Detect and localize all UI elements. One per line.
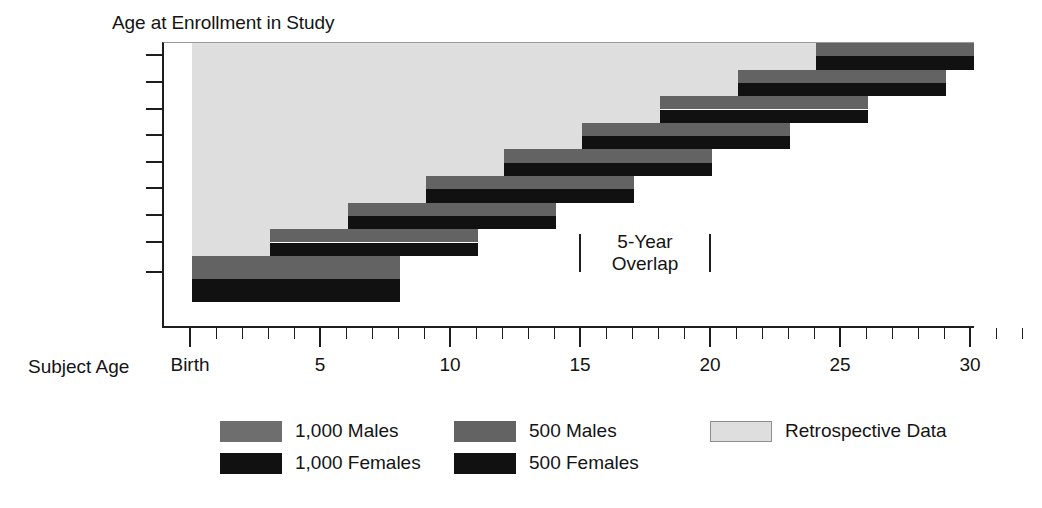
- cohort-females-bar: [426, 189, 634, 202]
- cohort-males-bar: [270, 229, 478, 242]
- legend-item-males-500[interactable]: 500 Males: [454, 420, 617, 442]
- x-tick-label: Birth: [170, 354, 209, 376]
- legend-item-retrospective[interactable]: Retrospective Data: [710, 420, 947, 442]
- x-tick-label: 20: [699, 354, 720, 376]
- cohort-females-bar: [192, 279, 400, 302]
- x-tick-minor: [372, 328, 373, 339]
- x-tick-minor: [1022, 328, 1023, 339]
- x-tick-minor: [346, 328, 347, 339]
- legend-label: 500 Females: [529, 452, 639, 474]
- cohort-males-bar: [192, 256, 400, 279]
- x-axis-title: Subject Age: [28, 356, 129, 378]
- y-axis-title: Age at Enrollment in Study: [112, 12, 334, 34]
- x-tick-major: [709, 328, 711, 347]
- overlap-rule-left: [579, 234, 581, 272]
- cohort-males-bar: [348, 203, 556, 216]
- y-tick-mark: [146, 187, 162, 189]
- legend-swatch-icon: [710, 421, 772, 442]
- x-tick-label: 10: [439, 354, 460, 376]
- x-tick-minor: [424, 328, 425, 339]
- overlap-label: 5-YearOverlap: [585, 231, 705, 275]
- legend-swatch-icon: [454, 453, 516, 474]
- cohort-females-bar: [582, 136, 790, 149]
- plot-area: [162, 42, 974, 326]
- cohort-males-bar: [816, 43, 974, 56]
- x-tick-major: [839, 328, 841, 347]
- x-tick-major: [189, 328, 191, 347]
- legend-swatch-icon: [220, 421, 282, 442]
- x-tick-minor: [892, 328, 893, 339]
- x-tick-minor: [788, 328, 789, 339]
- y-tick-mark: [146, 161, 162, 163]
- cohort-retrospective-segment: [192, 43, 270, 256]
- y-tick-mark: [146, 54, 162, 56]
- legend-item-females-500[interactable]: 500 Females: [454, 452, 639, 474]
- x-tick-major: [449, 328, 451, 347]
- chart-legend: 1,000 Males1,000 Females500 Males500 Fem…: [220, 420, 940, 490]
- y-tick-mark: [146, 241, 162, 243]
- x-tick-minor: [216, 328, 217, 339]
- cohort-females-bar: [504, 163, 712, 176]
- x-tick-minor: [554, 328, 555, 339]
- y-tick-mark: [146, 271, 162, 273]
- x-tick-minor: [268, 328, 269, 339]
- x-tick-minor: [762, 328, 763, 339]
- x-tick-label: 30: [959, 354, 980, 376]
- cohort-females-bar: [660, 110, 868, 123]
- cohort-females-bar: [348, 216, 556, 229]
- x-tick-minor: [996, 328, 997, 339]
- legend-item-females-1000[interactable]: 1,000 Females: [220, 452, 421, 474]
- x-tick-minor: [632, 328, 633, 339]
- x-tick-minor: [242, 328, 243, 339]
- x-axis-line: [162, 326, 974, 328]
- x-tick-minor: [866, 328, 867, 339]
- legend-label: Retrospective Data: [785, 420, 947, 442]
- x-tick-label: 25: [829, 354, 850, 376]
- x-tick-label: 5: [315, 354, 326, 376]
- x-tick-minor: [944, 328, 945, 339]
- cohort-males-bar: [738, 70, 946, 83]
- overlap-label-line1: 5-Year: [585, 231, 705, 253]
- cohort-females-bar: [270, 243, 478, 256]
- x-tick-minor: [684, 328, 685, 339]
- y-tick-mark: [146, 81, 162, 83]
- x-tick-minor: [294, 328, 295, 339]
- cohort-females-bar: [738, 83, 946, 96]
- chart-canvas: Age at Enrollment in Study Subject Age 2…: [0, 0, 1042, 508]
- x-tick-minor: [606, 328, 607, 339]
- legend-swatch-icon: [454, 421, 516, 442]
- y-tick-mark: [146, 214, 162, 216]
- x-tick-minor: [528, 328, 529, 339]
- cohort-males-bar: [426, 176, 634, 189]
- x-tick-minor: [476, 328, 477, 339]
- x-tick-minor: [502, 328, 503, 339]
- x-tick-minor: [398, 328, 399, 339]
- cohort-males-bar: [582, 123, 790, 136]
- x-tick-major: [579, 328, 581, 347]
- x-tick-minor: [736, 328, 737, 339]
- y-tick-mark: [146, 134, 162, 136]
- x-tick-major: [319, 328, 321, 347]
- y-tick-mark: [146, 108, 162, 110]
- x-tick-major: [969, 328, 971, 347]
- legend-label: 1,000 Males: [295, 420, 399, 442]
- x-tick-minor: [658, 328, 659, 339]
- cohort-females-bar: [816, 56, 974, 69]
- x-tick-minor: [918, 328, 919, 339]
- legend-item-males-1000[interactable]: 1,000 Males: [220, 420, 399, 442]
- legend-label: 500 Males: [529, 420, 617, 442]
- x-tick-label: 15: [569, 354, 590, 376]
- cohort-males-bar: [504, 149, 712, 162]
- cohort-males-bar: [660, 96, 868, 109]
- legend-swatch-icon: [220, 453, 282, 474]
- overlap-label-line2: Overlap: [585, 253, 705, 275]
- legend-label: 1,000 Females: [295, 452, 421, 474]
- overlap-rule-right: [709, 234, 711, 272]
- x-tick-minor: [814, 328, 815, 339]
